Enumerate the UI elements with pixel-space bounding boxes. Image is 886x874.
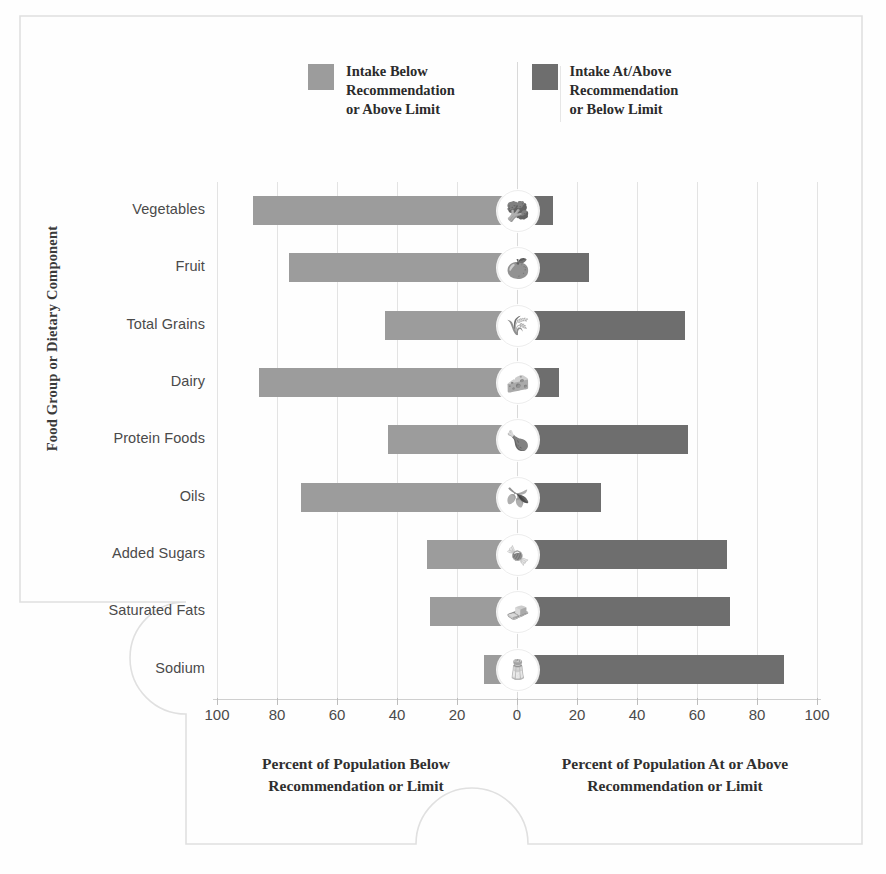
x-tick-mark: [697, 698, 698, 705]
x-axis-tick-label: 40: [629, 706, 646, 723]
bar-at-above-recommendation[interactable]: [517, 597, 730, 626]
sugar-cubes-icon-glyph: 🍬: [506, 546, 530, 565]
bar-below-recommendation[interactable]: [253, 196, 517, 225]
legend-item-below[interactable]: Intake Below Recommendation or Above Lim…: [300, 62, 497, 124]
grain-icon-glyph: 🌾: [506, 316, 530, 335]
plot-area: Vegetables🥦Fruit🍊Total Grains🌾Dairy🧀Prot…: [217, 182, 817, 698]
x-axis-tick-label: 0: [513, 706, 521, 723]
butter-icon-glyph: 🧈: [506, 603, 530, 622]
legend-label-below: Intake Below Recommendation or Above Lim…: [346, 62, 455, 119]
x-axis-tick-label: 60: [689, 706, 706, 723]
fruit-slice-icon-glyph: 🍊: [506, 259, 530, 278]
legend-divider: [560, 66, 561, 122]
y-axis-tick-label: Fruit: [57, 258, 205, 274]
cheese-icon: 🧀: [497, 362, 539, 404]
x-tick-mark: [457, 698, 458, 705]
bar-row: Dairy🧀: [217, 354, 817, 411]
x-axis-tick-label: 100: [204, 706, 229, 723]
x-axis-tick-label: 80: [269, 706, 286, 723]
x-tick-mark: [577, 698, 578, 705]
bar-below-recommendation[interactable]: [259, 368, 517, 397]
y-axis-tick-label: Sodium: [57, 660, 205, 676]
y-axis-tick-label: Total Grains: [57, 316, 205, 332]
x-axis-tick-label: 20: [449, 706, 466, 723]
bar-below-recommendation[interactable]: [301, 483, 517, 512]
bar-at-above-recommendation[interactable]: [517, 655, 784, 684]
legend-label-above: Intake At/Above Recommendation or Below …: [570, 62, 679, 119]
bar-at-above-recommendation[interactable]: [517, 425, 688, 454]
y-axis-tick-label: Dairy: [57, 373, 205, 389]
salt-shaker-icon-glyph: 🧂: [506, 660, 530, 679]
bar-row: Sodium🧂: [217, 641, 817, 698]
x-tick-mark: [217, 698, 218, 705]
legend-item-above[interactable]: Intake At/Above Recommendation or Below …: [497, 62, 721, 124]
chart-legend: Intake Below Recommendation or Above Lim…: [300, 62, 720, 124]
bar-row: Vegetables🥦: [217, 182, 817, 239]
broccoli-icon-glyph: 🥦: [506, 202, 530, 221]
x-axis-caption-right: Percent of Population At or Above Recomm…: [520, 753, 830, 798]
x-axis-caption-left: Percent of Population Below Recommendati…: [206, 753, 506, 798]
x-axis-tick-label: 40: [389, 706, 406, 723]
x-axis-tick-label: 60: [329, 706, 346, 723]
bar-row: Saturated Fats🧈: [217, 583, 817, 640]
protein-icon-glyph: 🍗: [506, 431, 530, 450]
y-axis-tick-label: Protein Foods: [57, 430, 205, 446]
x-axis-tick-label: 20: [569, 706, 586, 723]
bar-row: Oils🫒: [217, 469, 817, 526]
x-tick-mark: [757, 698, 758, 705]
legend-swatch-below: [308, 64, 334, 90]
bar-row: Total Grains🌾: [217, 297, 817, 354]
y-axis-tick-label: Oils: [57, 488, 205, 504]
x-axis-tick-label: 100: [804, 706, 829, 723]
bar-row: Fruit🍊: [217, 239, 817, 296]
x-tick-mark: [817, 698, 818, 705]
x-tick-mark: [517, 698, 518, 705]
x-axis-tick-label: 80: [749, 706, 766, 723]
y-axis-tick-label: Added Sugars: [57, 545, 205, 561]
bar-row: Added Sugars🍬: [217, 526, 817, 583]
gridline: [817, 182, 818, 698]
sugar-cubes-icon: 🍬: [497, 534, 539, 576]
salt-shaker-icon: 🧂: [497, 649, 539, 691]
legend-swatch-above: [532, 64, 558, 90]
x-tick-mark: [397, 698, 398, 705]
x-tick-mark: [637, 698, 638, 705]
fruit-slice-icon: 🍊: [497, 247, 539, 289]
bar-below-recommendation[interactable]: [289, 253, 517, 282]
bar-at-above-recommendation[interactable]: [517, 540, 727, 569]
bar-row: Protein Foods🍗: [217, 411, 817, 468]
y-axis-tick-label: Vegetables: [57, 201, 205, 217]
grain-icon: 🌾: [497, 305, 539, 347]
document-page: Intake Below Recommendation or Above Lim…: [0, 0, 886, 874]
x-tick-mark: [337, 698, 338, 705]
x-tick-mark: [277, 698, 278, 705]
bar-at-above-recommendation[interactable]: [517, 311, 685, 340]
y-axis-tick-label: Saturated Fats: [57, 602, 205, 618]
cheese-icon-glyph: 🧀: [506, 374, 530, 393]
broccoli-icon: 🥦: [497, 190, 539, 232]
protein-icon: 🍗: [497, 419, 539, 461]
oil-bottle-icon: 🫒: [497, 477, 539, 519]
x-axis-ticks: 10080604020020406080100: [217, 706, 817, 730]
oil-bottle-icon-glyph: 🫒: [506, 488, 530, 507]
butter-icon: 🧈: [497, 591, 539, 633]
diverging-bar-chart: Intake Below Recommendation or Above Lim…: [0, 0, 886, 874]
